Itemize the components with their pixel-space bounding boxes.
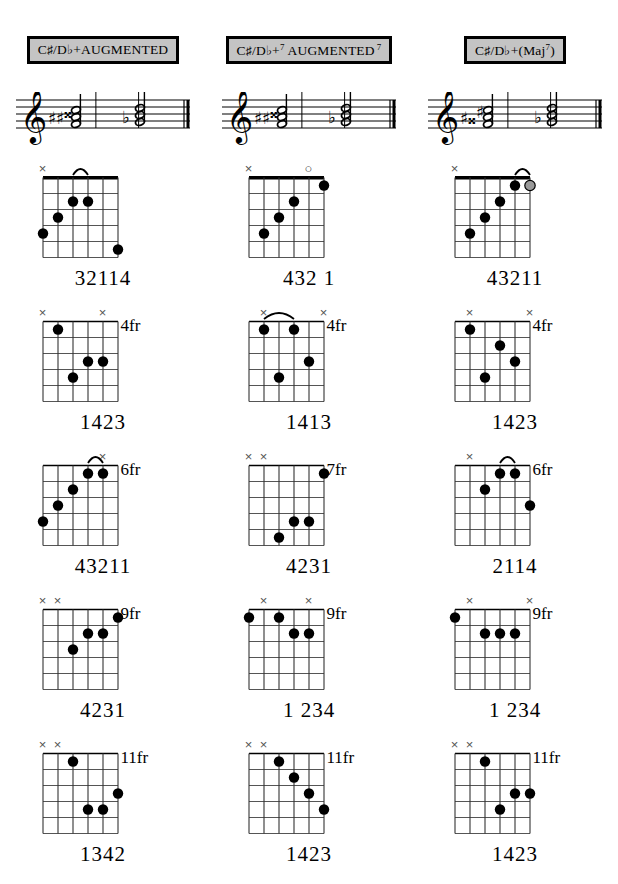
fret-position-label: 11fr <box>533 748 561 768</box>
finger-dot <box>258 324 268 334</box>
svg-text:𝄞: 𝄞 <box>432 92 459 145</box>
music-staff: 𝄞♯♯𝄪♭ <box>220 92 398 154</box>
music-staff: 𝄞♯♯𝄪♭ <box>14 92 192 154</box>
chord-diagram: ×6fr43211 <box>0 450 206 579</box>
mute-string-icon: × <box>39 594 47 607</box>
chord-name-box: C♯/D♭+7 AUGMENTED 7 <box>226 36 393 64</box>
diagram-row-3: ×6fr43211××7fr4231×6fr2114 <box>0 450 618 594</box>
finger-dot <box>494 468 504 478</box>
fretboard: 11fr <box>449 752 582 836</box>
open-mute-markers: ×× <box>37 738 170 752</box>
mute-string-icon: × <box>245 738 253 751</box>
svg-text:♯: ♯ <box>460 108 468 128</box>
column-headers: C♯/D♭+AUGMENTEDC♯/D♭+7 AUGMENTED 7C♯/D♭+… <box>0 36 618 64</box>
mute-string-icon: × <box>451 738 459 751</box>
diagram-body: ××11fr <box>449 738 582 836</box>
barre-arc <box>495 452 520 464</box>
chord-name-box: C♯/D♭+AUGMENTED <box>27 36 180 64</box>
fingering-numbers: 4231 <box>80 698 126 723</box>
fret-position-label: 4fr <box>533 316 553 336</box>
finger-dot <box>479 628 489 638</box>
finger-dot <box>449 612 459 622</box>
svg-text:♯: ♯ <box>48 108 56 128</box>
diagram-row-4: ××9fr4231××9fr1 234××9fr1 234 <box>0 594 618 738</box>
mute-string-icon: × <box>54 738 62 751</box>
svg-text:♭: ♭ <box>122 107 130 127</box>
fretboard: 6fr <box>37 464 170 548</box>
svg-text:♭: ♭ <box>534 107 542 127</box>
chord-diagram: ×6fr2114 <box>412 450 618 579</box>
mute-string-icon: × <box>451 162 459 175</box>
finger-dot <box>288 628 298 638</box>
chord-diagram: ×○432 1 <box>206 162 412 291</box>
fingering-numbers: 43211 <box>487 266 544 291</box>
chord-diagram: ××11fr1423 <box>412 738 618 867</box>
diagram-cell-c2-r1: ×○432 1 <box>206 162 412 306</box>
fingering-numbers: 1423 <box>492 842 538 867</box>
diagram-cell-c1-r2: ××4fr1423 <box>0 306 206 450</box>
open-mute-markers: ×× <box>243 450 376 464</box>
chord-name-box: C♯/D♭+(Maj7) <box>464 36 566 64</box>
finger-dot <box>303 356 313 366</box>
chord-diagram: ××9fr1 234 <box>412 594 618 723</box>
finger-dot <box>243 612 253 622</box>
diagram-cell-c2-r3: ××7fr4231 <box>206 450 412 594</box>
chord-diagram: ××7fr4231 <box>206 450 412 579</box>
fret-position-label: 7fr <box>327 460 347 480</box>
finger-dot <box>273 212 283 222</box>
diagram-row-2: ××4fr1423××4fr1413××4fr1423 <box>0 306 618 450</box>
finger-dot <box>494 628 504 638</box>
mute-string-icon: × <box>260 594 268 607</box>
finger-dot <box>52 212 62 222</box>
open-mute-markers: ×× <box>449 594 582 608</box>
diagram-cell-c2-r5: ××11fr1423 <box>206 738 412 882</box>
open-mute-markers: × <box>37 162 170 176</box>
finger-dot <box>479 372 489 382</box>
finger-dot <box>303 516 313 526</box>
finger-dot <box>258 228 268 238</box>
barre-arc <box>259 308 299 320</box>
mute-string-icon: × <box>245 162 253 175</box>
fret-position-label: 4fr <box>327 316 347 336</box>
finger-dot <box>82 804 92 814</box>
finger-dot <box>288 324 298 334</box>
open-mute-markers: ×× <box>243 738 376 752</box>
fingering-numbers: 1423 <box>492 410 538 435</box>
diagram-body: ×6fr <box>37 450 170 548</box>
diagram-body: ×6fr <box>449 450 582 548</box>
barre-arc <box>68 164 93 176</box>
svg-text:♯: ♯ <box>254 108 262 128</box>
open-mute-markers: ×× <box>449 306 582 320</box>
music-staff: 𝄞♯𝄪♯♭ <box>426 92 604 154</box>
fret-position-label: 11fr <box>121 748 149 768</box>
finger-dot <box>37 228 47 238</box>
mute-string-icon: × <box>39 306 47 319</box>
open-mute-markers: ×× <box>449 738 582 752</box>
staff-notation-row: 𝄞♯♯𝄪♭𝄞♯♯𝄪♭𝄞♯𝄪♯♭ <box>0 92 618 154</box>
svg-text:𝄪: 𝄪 <box>468 108 476 128</box>
fingering-numbers: 1423 <box>286 842 332 867</box>
finger-dot <box>494 340 504 350</box>
fingering-numbers: 432 1 <box>283 266 335 291</box>
finger-dot <box>67 644 77 654</box>
chord-diagram: ××4fr1413 <box>206 306 412 435</box>
finger-dot <box>509 180 519 190</box>
fretboard: 9fr <box>37 608 170 692</box>
mute-string-icon: × <box>39 162 47 175</box>
finger-dot <box>97 356 107 366</box>
open-mute-markers: × <box>449 450 582 464</box>
diagram-cell-c3-r5: ××11fr1423 <box>412 738 618 882</box>
fingering-numbers: 4231 <box>286 554 332 579</box>
open-mute-markers: ×× <box>37 306 170 320</box>
fretboard: 11fr <box>243 752 376 836</box>
finger-dot <box>97 628 107 638</box>
fretboard: 7fr <box>243 464 376 548</box>
barre-arc <box>83 452 108 464</box>
mute-string-icon: × <box>305 594 313 607</box>
finger-dot <box>52 500 62 510</box>
svg-text:♭: ♭ <box>328 107 336 127</box>
diagram-body: × <box>449 162 582 260</box>
mute-string-icon: × <box>466 594 474 607</box>
svg-text:♯: ♯ <box>262 108 270 128</box>
diagram-body: ××11fr <box>37 738 170 836</box>
